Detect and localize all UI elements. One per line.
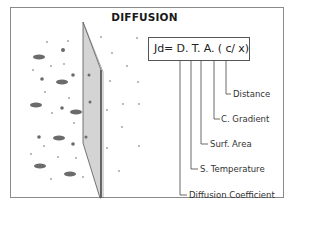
solute-particles-large	[30, 48, 92, 177]
label-surf-area: Surf. Area	[210, 139, 252, 149]
label-distance: Distance	[233, 89, 270, 99]
label-diffusion-coefficient: Diffusion Coefficient	[189, 190, 275, 200]
label-s-temperature: S. Temperature	[200, 164, 265, 174]
equation-leader-lines	[180, 60, 231, 195]
label-c-gradient: C. Gradient	[221, 114, 269, 124]
membrane	[83, 22, 103, 198]
diffusion-equation: Jd= D. T. A. ( c/ x)	[154, 42, 249, 55]
